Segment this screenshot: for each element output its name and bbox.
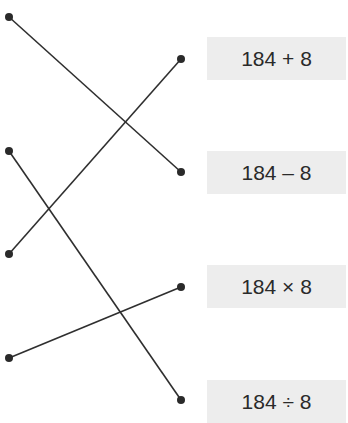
right-dot[interactable]: [177, 168, 185, 176]
left-dot[interactable]: [5, 147, 13, 155]
expression-label: 184 ÷ 8: [242, 390, 312, 414]
expression-box-division: 184 ÷ 8: [207, 380, 346, 423]
expression-label: 184 + 8: [241, 47, 312, 71]
expression-box-addition: 184 + 8: [207, 37, 346, 80]
expression-box-multiplication: 184 × 8: [207, 265, 346, 308]
right-dot[interactable]: [177, 396, 185, 404]
left-dot[interactable]: [5, 13, 13, 21]
connector-line: [9, 17, 181, 172]
connector-line: [9, 287, 181, 358]
connector-line: [9, 59, 181, 254]
expression-box-subtraction: 184 – 8: [207, 151, 346, 194]
left-dot[interactable]: [5, 354, 13, 362]
expression-label: 184 – 8: [241, 161, 311, 185]
expression-label: 184 × 8: [241, 275, 312, 299]
right-dot[interactable]: [177, 55, 185, 63]
connector-line: [9, 151, 181, 400]
left-dot[interactable]: [5, 250, 13, 258]
right-dot[interactable]: [177, 283, 185, 291]
